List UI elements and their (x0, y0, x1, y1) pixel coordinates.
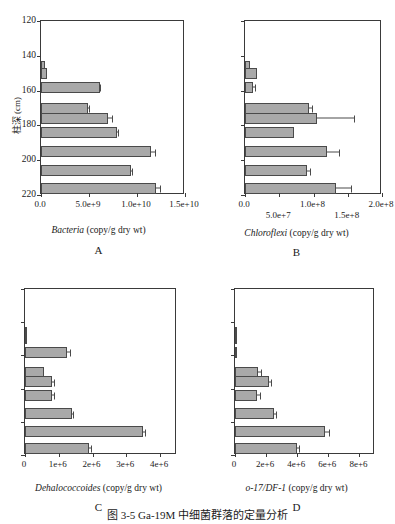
bar-item[interactable] (41, 146, 183, 157)
bar-item[interactable] (235, 426, 373, 437)
error-bar (117, 132, 118, 133)
bar-item[interactable] (25, 426, 175, 437)
panel-b-plot-area (244, 20, 381, 194)
bar (235, 390, 257, 401)
y-axis-tick (241, 56, 245, 57)
bar (235, 408, 274, 419)
error-bar (156, 188, 160, 189)
bar-item[interactable] (25, 347, 175, 358)
x-axis-tick (93, 453, 94, 457)
bar-item[interactable] (41, 113, 183, 124)
y-axis-tick (241, 160, 245, 161)
bar (235, 333, 237, 344)
bar (41, 113, 108, 124)
figure-container: 柱深 (cm) 120140160180200220 Bacteria (cop… (0, 0, 395, 524)
y-axis-tick-label: 180 (22, 121, 36, 131)
bar-item[interactable] (235, 347, 373, 358)
bar-item[interactable] (25, 408, 175, 419)
x-axis-tick (235, 453, 236, 457)
bar-item[interactable] (245, 68, 380, 79)
x-axis-tick (328, 453, 329, 457)
error-bar (297, 448, 299, 449)
x-axis-tick-label: 2.0e+8 (369, 200, 394, 209)
bar-item[interactable] (41, 183, 183, 194)
panel-a: 柱深 (cm) 120140160180200220 Bacteria (cop… (0, 6, 197, 261)
bar-item[interactable] (25, 443, 175, 454)
panel-d-plot-area (234, 288, 374, 454)
bar-item[interactable] (25, 376, 175, 387)
bar-item[interactable] (41, 82, 183, 93)
error-bar (274, 413, 277, 414)
panel-a-x-axis-title: Bacteria (copy/g dry wt) (0, 225, 197, 235)
bar-item[interactable] (245, 82, 380, 93)
x-axis-tick (126, 453, 127, 457)
error-bar (253, 87, 256, 88)
bar (245, 183, 336, 194)
bar-item[interactable] (235, 443, 373, 454)
bar (235, 347, 237, 358)
bar-item[interactable] (245, 113, 380, 124)
bar-item[interactable] (245, 103, 380, 114)
bar (41, 146, 151, 157)
bar-item[interactable] (41, 165, 183, 176)
x-axis-tick (359, 453, 360, 457)
bar-item[interactable] (235, 333, 373, 344)
bar (245, 113, 317, 124)
error-bar (307, 170, 311, 171)
bar-item[interactable] (25, 333, 175, 344)
x-axis-tick-label: 1.0e+10 (121, 200, 150, 209)
bar-item[interactable] (235, 390, 373, 401)
bar-item[interactable] (245, 183, 380, 194)
bar-item[interactable] (25, 390, 175, 401)
y-axis-tick (21, 355, 25, 356)
bar-item[interactable] (41, 127, 183, 138)
x-axis-tick (89, 193, 90, 197)
error-bar (151, 151, 155, 152)
bar-item[interactable] (235, 376, 373, 387)
bar (25, 408, 72, 419)
bar-series (235, 289, 373, 453)
bar-series (245, 21, 380, 193)
error-bar (143, 431, 145, 432)
bar-item[interactable] (245, 146, 380, 157)
bar (25, 347, 67, 358)
x-axis-tick-label: 5.0e+9 (76, 200, 101, 209)
panel-b: Chloroflexi (copy/g dry wt) B 0.05.0e+71… (198, 6, 395, 261)
x-axis-tick-label: 0.0 (238, 200, 249, 209)
x-axis-tick (25, 453, 26, 457)
bar (245, 68, 257, 79)
x-axis-tick-label: 1.5e+8 (334, 211, 359, 220)
bar-item[interactable] (41, 68, 183, 79)
panel-a-species-name: Bacteria (51, 225, 84, 235)
x-axis-tick-label: 2e+6 (256, 460, 274, 469)
x-axis-tick (382, 193, 383, 197)
error-bar (108, 118, 112, 119)
bar (245, 103, 309, 114)
bar-item[interactable] (245, 165, 380, 176)
y-axis-tick (37, 125, 41, 126)
bar-series (25, 289, 175, 453)
bar-series (41, 21, 183, 193)
bar (245, 82, 253, 93)
error-bar (317, 118, 355, 119)
x-axis-tick-label: 1.0e+8 (300, 200, 325, 209)
bar-item[interactable] (245, 127, 380, 138)
bar-item[interactable] (41, 103, 183, 114)
x-axis-tick-label: 5.0e+7 (266, 211, 291, 220)
y-axis-tick (241, 91, 245, 92)
bar (25, 426, 143, 437)
y-axis-tick (231, 355, 235, 356)
panel-d: o-17/DF-1 (copy/g dry wt) D 02e+64e+66e+… (198, 272, 395, 522)
panel-b-units: (copy/g dry wt) (287, 228, 348, 238)
bar-item[interactable] (235, 408, 373, 419)
x-axis-tick (160, 453, 161, 457)
panel-d-species-name: o-17/DF-1 (245, 483, 286, 493)
error-bar (269, 381, 271, 382)
x-axis-tick-label: 0 (232, 460, 237, 469)
x-axis-tick-label: 2e+6 (83, 460, 101, 469)
panel-a-plot-area: 120140160180200220 (40, 20, 184, 194)
panel-c-plot-area (24, 288, 176, 454)
panel-c: Dehalococcoides (copy/g dry wt) C 01e+62… (0, 272, 197, 522)
panel-c-species-name: Dehalococcoides (35, 483, 100, 493)
y-axis-tick-label: 160 (22, 86, 36, 96)
